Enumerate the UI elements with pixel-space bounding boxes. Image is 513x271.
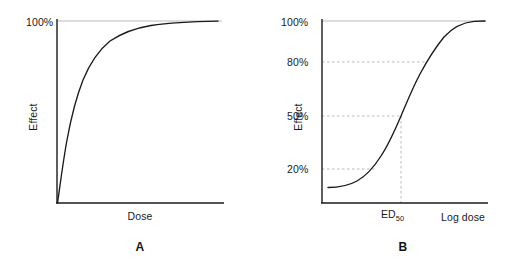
figure-container: 100% Effect Dose A 100% 80% 50% 20% Effe… <box>0 0 513 271</box>
panel-letter-a: A <box>125 240 155 254</box>
ed50-label: ED50 <box>381 208 404 220</box>
y-tick-label-100: 100% <box>281 16 308 28</box>
panel-letter-b: B <box>388 240 418 254</box>
panel-a: 100% Effect Dose A <box>0 0 257 271</box>
y-tick-label-20: 20% <box>287 163 308 175</box>
y-axis-title: Effect <box>27 97 39 137</box>
dose-response-curve <box>58 21 219 203</box>
panel-b: 100% 80% 50% 20% Effect ED50 Log dose B <box>256 0 513 271</box>
ed50-label-subscript: 50 <box>396 214 405 223</box>
y-tick-label-100: 100% <box>26 16 53 28</box>
x-axis-title: Dose <box>110 210 170 222</box>
log-dose-response-curve <box>328 21 485 188</box>
y-tick-label-80: 80% <box>287 56 308 68</box>
y-axis-title: Effect <box>292 97 304 137</box>
ed50-label-main: ED <box>381 208 396 220</box>
x-axis-title: Log dose <box>441 211 485 223</box>
